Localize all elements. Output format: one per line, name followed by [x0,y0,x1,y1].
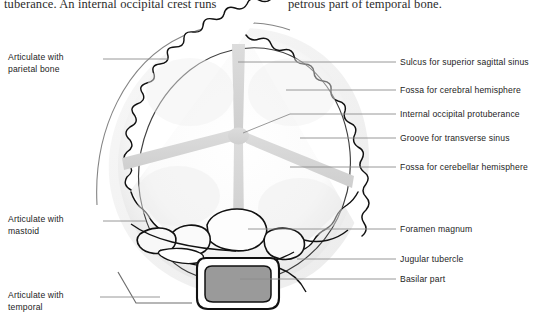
label-line-1: Articulate with [8,214,64,224]
label-basilar-part: Basilar part [400,274,445,286]
label-line-2: parietal bone [8,64,60,74]
label-line-1: Articulate with [8,290,64,300]
foramen-magnum-aperture [205,266,271,302]
sulcus-superior-sagittal-sinus-shape [232,44,245,130]
basilar-part-shape [207,209,267,251]
label-line-2: mastoid [8,226,39,236]
figure-canvas: tuberance. An internal occipital crest r… [0,0,558,322]
jugular-tubercle-right [264,228,304,259]
label-articulate-with-parietal-bone: Articulate with parietal bone [8,52,100,75]
label-fossa-for-cerebellar-hemisphere: Fossa for cerebellar hemisphere [400,162,528,174]
label-jugular-tubercle: Jugular tubercle [400,254,464,266]
label-line-1: Articulate with [8,52,64,62]
body-text-left-column: tuberance. An internal occipital crest r… [4,0,217,12]
label-fossa-for-cerebral-hemisphere: Fossa for cerebral hemisphere [400,85,521,97]
body-text-right-column: petrous part of temporal bone. [288,0,442,12]
label-foramen-magnum: Foramen magnum [400,224,472,236]
label-articulate-with-temporal: Articulate with temporal [8,290,100,313]
label-internal-occipital-protuberance: Internal occipital protuberance [400,109,520,121]
internal-occipital-protuberance-shape [228,128,249,145]
fossa-cerebral-right [248,58,336,126]
label-sulcus-for-superior-sagittal-sinus: Sulcus for superior sagittal sinus [400,57,529,69]
occipital-bone-illustration [0,0,558,322]
fossa-cerebellar-left [136,166,220,226]
label-articulate-with-mastoid: Articulate with mastoid [8,214,100,237]
fossa-cerebral-left [146,58,234,126]
label-groove-for-transverse-sinus: Groove for transverse sinus [400,133,510,145]
label-line-2: temporal [8,302,43,312]
